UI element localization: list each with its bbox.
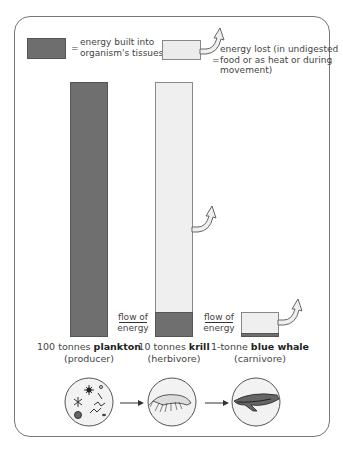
whale-icon <box>231 377 281 427</box>
krill-icon <box>147 377 197 427</box>
flow-label-2: flow of energy <box>203 312 235 333</box>
legend-lost-equals: = <box>212 55 220 66</box>
flow-label-1: flow of energy <box>117 312 149 333</box>
plankton-icon <box>64 377 114 427</box>
food-chain-arrow-icon <box>205 400 229 406</box>
food-chain-arrow-icon <box>120 400 144 406</box>
legend-built-text: energy built into organism's tissues <box>80 37 163 58</box>
krill-energy-built-bar <box>155 312 193 337</box>
legend-built-equals: = <box>71 43 79 54</box>
krill-energy-lost-bar <box>155 82 193 313</box>
flow-arrow-icon <box>205 322 233 323</box>
legend-built-swatch <box>27 38 66 59</box>
legend-lost-text: energy lost (in undigested food or as he… <box>220 44 338 76</box>
legend-lost-swatch <box>162 40 201 60</box>
whale-energy-lost-bar <box>241 312 279 334</box>
krill-lost-arrow-icon <box>192 204 222 240</box>
whale-energy-built-bar <box>241 333 279 337</box>
level-label-whale: 1-tonne blue whale (carnivore) <box>200 341 320 364</box>
whale-lost-arrow-icon <box>278 297 308 333</box>
plankton-bar <box>70 82 108 337</box>
flow-arrow-icon <box>119 322 147 323</box>
